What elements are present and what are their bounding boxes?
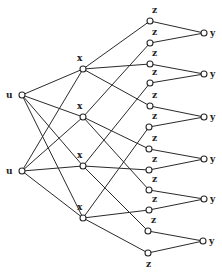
edge-z3-y2	[150, 64, 204, 74]
node-z5	[147, 103, 153, 109]
edge-u2-x3	[22, 166, 83, 171]
labels-layer: uuxxxxzzzzzzzzzzzzyyyyyy	[6, 5, 216, 269]
node-z11	[145, 228, 151, 234]
node-label-u2: u	[6, 166, 13, 176]
edge-x2-z7	[83, 117, 149, 149]
edge-x1-z3	[83, 64, 150, 69]
node-label-x4: x	[77, 202, 83, 212]
node-z7	[146, 146, 152, 152]
nodes-layer	[19, 18, 207, 256]
edge-x4-z10	[83, 210, 149, 218]
edge-z9-y5	[149, 190, 204, 199]
edge-z1-y1	[150, 21, 204, 33]
node-label-z6: z	[152, 111, 157, 121]
node-u2	[19, 168, 25, 174]
edge-x3-z8	[83, 166, 149, 170]
node-label-z8: z	[152, 154, 157, 164]
edge-x3-z11	[83, 166, 148, 231]
edge-z8-y4	[149, 159, 204, 170]
node-label-z9: z	[152, 174, 157, 184]
edge-x2-z2	[83, 43, 150, 117]
node-label-z11: z	[151, 215, 156, 225]
node-label-z10: z	[152, 194, 157, 204]
node-label-z3: z	[152, 48, 157, 58]
node-z9	[146, 187, 152, 193]
edge-u2-x4	[22, 171, 83, 218]
edge-x1-z1	[83, 21, 150, 69]
node-label-x2: x	[77, 101, 83, 111]
node-z10	[146, 207, 152, 213]
node-z4	[147, 80, 153, 86]
node-y2	[201, 71, 207, 77]
node-u1	[19, 92, 25, 98]
node-label-z5: z	[152, 90, 157, 100]
node-label-y4: y	[209, 154, 216, 164]
network-diagram: uuxxxxzzzzzzzzzzzzyyyyyy	[0, 0, 222, 275]
node-label-z1: z	[152, 5, 157, 15]
node-y1	[201, 30, 207, 36]
node-label-y1: y	[209, 28, 216, 38]
edge-u1-x1	[22, 69, 83, 95]
node-label-z4: z	[152, 67, 157, 77]
edge-x4-z6	[83, 127, 149, 218]
node-label-z2: z	[152, 27, 157, 37]
node-label-u1: u	[6, 90, 13, 100]
edge-z12-y6	[148, 241, 203, 253]
node-y6	[200, 238, 206, 244]
node-x1	[80, 66, 86, 72]
edge-u2-x2	[22, 117, 83, 171]
edge-z4-y2	[150, 74, 204, 83]
edge-x1-z5	[83, 69, 150, 106]
node-label-x3: x	[77, 150, 83, 160]
node-z8	[146, 167, 152, 173]
node-y5	[201, 196, 207, 202]
edge-z10-y5	[149, 199, 204, 210]
node-x4	[80, 215, 86, 221]
node-y4	[201, 156, 207, 162]
node-z1	[147, 18, 153, 24]
edge-z11-y6	[148, 231, 203, 241]
node-label-x1: x	[77, 53, 83, 63]
node-label-y6: y	[208, 236, 215, 246]
node-label-z12: z	[146, 259, 151, 269]
edge-z6-y3	[149, 117, 204, 127]
node-label-y5: y	[209, 194, 216, 204]
edge-z7-y4	[149, 149, 204, 159]
node-z6	[146, 124, 152, 130]
node-label-y3: y	[209, 112, 216, 122]
node-y3	[201, 114, 207, 120]
node-label-z7: z	[152, 133, 157, 143]
edge-x4-z12	[83, 218, 148, 253]
node-z2	[147, 40, 153, 46]
edge-z5-y3	[150, 106, 204, 117]
edges-layer	[22, 21, 204, 253]
node-label-y2: y	[209, 69, 216, 79]
node-x2	[80, 114, 86, 120]
node-z12	[145, 250, 151, 256]
node-x3	[80, 163, 86, 169]
edge-z2-y1	[150, 33, 204, 43]
